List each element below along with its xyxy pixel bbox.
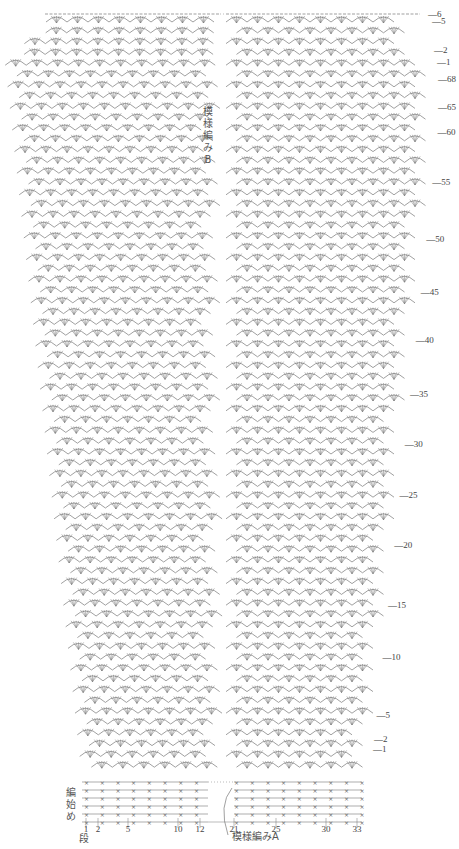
row-label: —40 [415, 335, 435, 345]
pattern-b-char-4: み [203, 142, 213, 153]
svg-text:×: × [313, 811, 318, 818]
stitch-number: 12 [196, 824, 205, 834]
svg-text:×: × [147, 779, 152, 786]
row-label: —50 [425, 234, 445, 244]
svg-text:×: × [250, 811, 255, 818]
svg-text:×: × [115, 819, 120, 826]
svg-text:×: × [265, 819, 270, 826]
row-label: —5 [375, 710, 390, 720]
svg-text:×: × [234, 779, 239, 786]
svg-text:×: × [84, 811, 89, 818]
svg-text:×: × [328, 803, 333, 810]
svg-text:×: × [281, 779, 286, 786]
svg-text:×: × [313, 819, 318, 826]
svg-text:×: × [281, 811, 286, 818]
svg-text:×: × [84, 803, 89, 810]
start-label: 編 始 め [66, 786, 76, 822]
svg-text:×: × [194, 795, 199, 802]
svg-text:×: × [344, 779, 349, 786]
svg-text:×: × [360, 811, 365, 818]
svg-text:×: × [328, 795, 333, 802]
row-label: —68 [437, 74, 457, 84]
svg-text:×: × [115, 803, 120, 810]
svg-text:×: × [131, 779, 136, 786]
svg-text:×: × [250, 795, 255, 802]
pattern-b-char-1: 模 [203, 106, 213, 117]
svg-text:×: × [234, 787, 239, 794]
svg-text:×: × [360, 803, 365, 810]
svg-text:×: × [234, 811, 239, 818]
svg-text:×: × [84, 779, 89, 786]
svg-text:×: × [250, 787, 255, 794]
row-label: —65 [437, 102, 457, 112]
svg-text:×: × [163, 779, 168, 786]
stitch-number: 33 [353, 824, 363, 834]
svg-text:×: × [100, 819, 105, 826]
svg-text:×: × [328, 779, 333, 786]
svg-text:×: × [100, 803, 105, 810]
svg-text:×: × [163, 795, 168, 802]
svg-text:×: × [360, 787, 365, 794]
svg-text:×: × [234, 795, 239, 802]
svg-text:×: × [178, 803, 183, 810]
svg-text:×: × [297, 819, 302, 826]
svg-text:×: × [131, 803, 136, 810]
svg-text:×: × [344, 795, 349, 802]
svg-text:×: × [178, 779, 183, 786]
stitch-number: 5 [126, 824, 131, 834]
svg-text:×: × [131, 811, 136, 818]
svg-text:×: × [147, 795, 152, 802]
svg-text:×: × [194, 787, 199, 794]
row-label: —20 [393, 540, 413, 550]
svg-text:×: × [344, 787, 349, 794]
svg-text:×: × [115, 787, 120, 794]
row-label: —45 [420, 287, 440, 297]
svg-text:×: × [297, 779, 302, 786]
svg-text:×: × [250, 803, 255, 810]
svg-text:×: × [234, 803, 239, 810]
svg-text:×: × [344, 811, 349, 818]
svg-text:×: × [131, 795, 136, 802]
svg-text:×: × [115, 795, 120, 802]
row-label: —2 [373, 734, 388, 744]
svg-text:×: × [328, 811, 333, 818]
svg-text:×: × [131, 819, 136, 826]
svg-text:×: × [131, 787, 136, 794]
row-labels: —6—5—2—1—68—65—60—55—50—45—40—35—30—25—2… [84, 9, 457, 834]
svg-text:×: × [297, 811, 302, 818]
svg-text:×: × [147, 787, 152, 794]
svg-text:×: × [265, 803, 270, 810]
svg-text:×: × [297, 803, 302, 810]
svg-text:×: × [147, 811, 152, 818]
pattern-b-char-3: 編 [203, 129, 213, 141]
svg-text:×: × [100, 795, 105, 802]
svg-text:×: × [115, 811, 120, 818]
svg-text:×: × [163, 811, 168, 818]
svg-text:×: × [178, 795, 183, 802]
svg-text:×: × [281, 787, 286, 794]
row-label: —15 [387, 600, 407, 610]
svg-text:×: × [281, 795, 286, 802]
row-label: —25 [399, 490, 419, 500]
svg-text:×: × [115, 779, 120, 786]
svg-text:×: × [100, 811, 105, 818]
svg-text:×: × [328, 787, 333, 794]
svg-text:×: × [313, 803, 318, 810]
svg-text:×: × [147, 803, 152, 810]
row-label: —10 [382, 652, 402, 662]
start-char-2: 始 [66, 798, 76, 810]
svg-text:×: × [265, 795, 270, 802]
start-char-1: 編 [66, 786, 76, 798]
svg-text:×: × [163, 787, 168, 794]
svg-text:×: × [163, 819, 168, 826]
svg-text:×: × [313, 795, 318, 802]
row-label: —1 [372, 744, 387, 754]
crochet-chart: ××××××××××××××××××××××××××××××××××××××××… [0, 0, 459, 849]
svg-text:×: × [313, 787, 318, 794]
svg-text:×: × [297, 787, 302, 794]
row-label: —2 [433, 45, 448, 55]
pattern-b-char-2: 様 [203, 117, 213, 129]
svg-text:×: × [250, 779, 255, 786]
svg-text:×: × [100, 779, 105, 786]
row-label: —1 [436, 57, 451, 67]
